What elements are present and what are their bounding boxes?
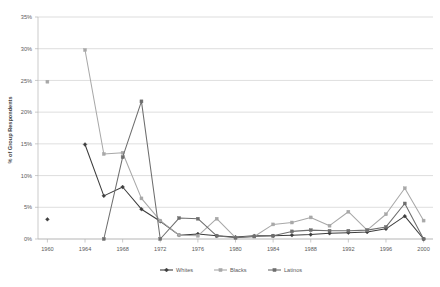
data-point-marker bbox=[290, 221, 293, 224]
x-axis-tick-label: 1972 bbox=[154, 246, 166, 252]
x-axis-tick-label: 1976 bbox=[192, 246, 204, 252]
data-point-marker bbox=[83, 143, 87, 147]
data-point-marker bbox=[347, 229, 350, 232]
data-point-marker bbox=[347, 210, 350, 213]
data-point-marker bbox=[328, 229, 331, 232]
data-point-marker bbox=[102, 238, 105, 241]
data-point-marker bbox=[422, 219, 425, 222]
y-axis-tick-label: 15% bbox=[21, 141, 32, 147]
data-point-marker bbox=[84, 48, 87, 51]
data-point-marker bbox=[102, 153, 105, 156]
legend-entry-latinos: Latinos bbox=[268, 267, 302, 273]
data-point-marker bbox=[102, 194, 106, 198]
chart-legend: WhitesBlacksLatinos bbox=[160, 267, 302, 273]
data-point-marker bbox=[140, 197, 143, 200]
data-point-marker bbox=[159, 238, 162, 241]
data-point-marker bbox=[366, 229, 369, 232]
legend-entry-whites: Whites bbox=[160, 267, 193, 273]
y-axis-title: % of Group Respondents bbox=[7, 96, 13, 163]
data-point-marker bbox=[328, 224, 331, 227]
x-axis-tick-labels: 1960196419681972197619801984198819921996… bbox=[41, 246, 430, 252]
legend-entry-label: Latinos bbox=[284, 267, 302, 273]
data-point-marker bbox=[290, 233, 294, 237]
y-axis-tick-label: 10% bbox=[21, 173, 32, 179]
series-latinos bbox=[102, 100, 425, 241]
data-point-marker bbox=[140, 100, 143, 103]
data-point-marker bbox=[272, 223, 275, 226]
y-axis-tick-labels: 0%5%10%15%20%25%30%35% bbox=[21, 14, 38, 242]
legend-entry-blacks: Blacks bbox=[214, 267, 247, 273]
data-point-marker bbox=[403, 202, 406, 205]
x-axis-tick-label: 1996 bbox=[380, 246, 392, 252]
data-point-marker bbox=[253, 235, 256, 238]
y-axis-tick-label: 0% bbox=[24, 236, 32, 242]
axis-lines bbox=[38, 17, 433, 239]
data-point-marker bbox=[178, 234, 181, 237]
data-point-marker bbox=[215, 217, 218, 220]
y-axis-title-group: % of Group Respondents bbox=[7, 96, 13, 163]
data-point-marker bbox=[46, 217, 50, 221]
y-axis-tick-label: 35% bbox=[21, 14, 32, 20]
data-point-marker bbox=[178, 217, 181, 220]
y-axis-tick-label: 5% bbox=[24, 204, 32, 210]
y-axis-tick-label: 20% bbox=[21, 109, 32, 115]
data-point-marker bbox=[196, 234, 199, 237]
x-axis-tick-label: 1968 bbox=[116, 246, 128, 252]
x-axis-tick-label: 1988 bbox=[305, 246, 317, 252]
x-axis-tick-label: 1964 bbox=[79, 246, 91, 252]
data-point-marker bbox=[121, 156, 124, 159]
y-axis-tick-label: 30% bbox=[21, 46, 32, 52]
data-point-marker bbox=[272, 234, 275, 237]
legend-swatch-marker bbox=[165, 268, 169, 272]
data-point-marker bbox=[159, 219, 162, 222]
data-point-marker bbox=[309, 216, 312, 219]
y-axis-tick-label: 25% bbox=[21, 78, 32, 84]
x-axis-tick-label: 1960 bbox=[41, 246, 53, 252]
data-point-marker bbox=[384, 213, 387, 216]
faint-cropped-title bbox=[0, 0, 440, 3]
series-whites bbox=[46, 143, 426, 241]
data-point-marker bbox=[234, 236, 237, 239]
data-point-marker bbox=[196, 217, 199, 220]
data-point-marker bbox=[309, 233, 313, 237]
x-axis-tick-label: 1984 bbox=[267, 246, 279, 252]
legend-swatch-marker bbox=[219, 268, 222, 271]
legend-swatch-marker bbox=[273, 268, 276, 271]
data-point-marker bbox=[215, 234, 218, 237]
data-point-marker bbox=[46, 80, 49, 83]
x-axis-tick-label: 2000 bbox=[417, 246, 429, 252]
x-axis-tick-label: 1992 bbox=[342, 246, 354, 252]
gridlines-group bbox=[38, 17, 433, 239]
line-chart: 0%5%10%15%20%25%30%35% 19601964196819721… bbox=[0, 0, 440, 287]
data-point-marker bbox=[384, 225, 387, 228]
series-line-latinos bbox=[104, 101, 424, 239]
x-axis-tick-label: 1980 bbox=[229, 246, 241, 252]
data-point-marker bbox=[290, 230, 293, 233]
data-point-marker bbox=[309, 229, 312, 232]
legend-entry-label: Blacks bbox=[230, 267, 247, 273]
series-layer bbox=[46, 48, 426, 240]
data-point-marker bbox=[403, 187, 406, 190]
data-point-marker bbox=[422, 238, 425, 241]
legend-entry-label: Whites bbox=[176, 267, 193, 273]
chart-container: 0%5%10%15%20%25%30%35% 19601964196819721… bbox=[0, 0, 440, 287]
